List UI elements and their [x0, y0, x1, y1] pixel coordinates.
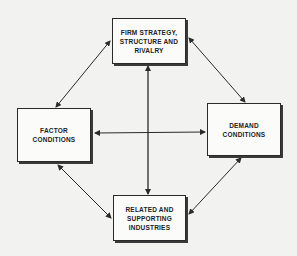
edge-top-right — [189, 38, 245, 102]
node-demand-conditions-line-1: DEMAND — [223, 121, 266, 130]
edge-left-bottom — [58, 165, 111, 218]
node-demand-conditions-line-2: CONDITIONS — [223, 130, 266, 139]
node-factor-conditions-line-2: CONDITIONS — [33, 135, 76, 144]
edge-left-right — [95, 132, 205, 133]
edge-top-left — [56, 41, 110, 107]
node-factor-conditions: FACTOR CONDITIONS — [17, 108, 91, 162]
node-related-supporting-line-1: RELATED AND — [125, 205, 173, 214]
node-related-supporting: RELATED AND SUPPORTING INDUSTRIES — [113, 195, 186, 241]
node-related-supporting-line-2: SUPPORTING — [125, 214, 173, 223]
node-demand-conditions: DEMAND CONDITIONS — [207, 103, 281, 156]
node-firm-strategy-line-1: FIRM STRATEGY, — [120, 28, 178, 37]
node-factor-conditions-line-1: FACTOR — [33, 126, 76, 135]
node-related-supporting-line-3: INDUSTRIES — [125, 223, 173, 232]
node-firm-strategy-line-2: STRUCTURE AND — [120, 37, 178, 46]
node-firm-strategy-line-3: RIVALRY — [120, 46, 178, 55]
edge-right-bottom — [189, 158, 241, 214]
node-firm-strategy: FIRM STRATEGY, STRUCTURE AND RIVALRY — [112, 18, 186, 64]
